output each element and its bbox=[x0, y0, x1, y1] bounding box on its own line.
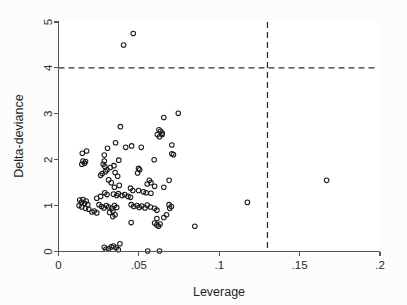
y-axis-title: Delta-deviance bbox=[12, 94, 26, 177]
x-tick-label: .1 bbox=[214, 259, 224, 271]
x-tick-label: .05 bbox=[131, 259, 147, 271]
y-tick-label: 4 bbox=[42, 64, 54, 71]
y-tick-label: 3 bbox=[42, 111, 54, 117]
y-tick-label: 1 bbox=[42, 202, 54, 208]
y-tick-label: 5 bbox=[42, 19, 54, 25]
scatter-plot-figure: 0.05.1.15.2 012345 Leverage Delta-devian… bbox=[0, 0, 407, 305]
x-tick-label: .15 bbox=[292, 259, 308, 271]
x-axis-ticks: 0.05.1.15.2 bbox=[55, 252, 385, 271]
y-tick-label: 0 bbox=[42, 248, 54, 254]
x-tick-label: 0 bbox=[55, 259, 61, 271]
y-tick-label: 2 bbox=[42, 156, 54, 162]
y-axis-ticks: 012345 bbox=[42, 19, 59, 255]
plot-background bbox=[58, 22, 380, 251]
x-axis-title: Leverage bbox=[193, 285, 245, 299]
leverage-vs-delta-deviance-chart: 0.05.1.15.2 012345 Leverage Delta-devian… bbox=[0, 0, 407, 305]
x-tick-label: .2 bbox=[375, 259, 385, 271]
